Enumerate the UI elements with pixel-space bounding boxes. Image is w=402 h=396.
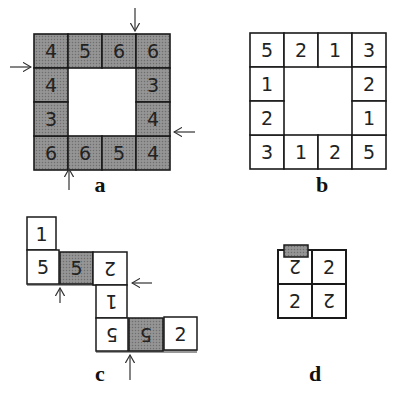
panel-b-tile-top-2: 1 xyxy=(318,33,352,67)
panel-a-tile-bottom-3-number: 4 xyxy=(147,142,159,164)
panel-a-tile-top-2-number: 6 xyxy=(113,40,125,62)
panel-b-tile-top-2-number: 1 xyxy=(329,39,341,61)
panel-a-tile-bottom-1: 6 xyxy=(68,136,102,170)
panel-c-tile-3: 2 xyxy=(93,252,127,285)
panel-b-tile-right-1: 1 xyxy=(352,101,386,135)
panel-a-tile-top-0-number: 4 xyxy=(45,40,57,62)
panel-b-tile-left-0: 1 xyxy=(250,67,284,101)
panel-a-tile-bottom-0-number: 6 xyxy=(45,142,57,164)
panel-b-tile-bottom-3-number: 5 xyxy=(363,141,375,163)
panel-d-tile-1-number: 2 xyxy=(323,256,335,278)
panel-a-tile-top-1-number: 5 xyxy=(79,40,91,62)
panel-b-tile-top-0-number: 5 xyxy=(261,39,273,61)
panel-a-tile-right-1: 4 xyxy=(136,102,170,136)
folding-puzzle-figure: 456666544334 521331251221 15521552 2222 … xyxy=(0,0,402,396)
panel-a-tile-right-1-number: 4 xyxy=(147,108,159,130)
panel-c-tile-1: 5 xyxy=(27,250,59,284)
panel-d-tile-2-number: 2 xyxy=(289,290,301,312)
panel-c-tile-4-number: 1 xyxy=(105,291,117,313)
panel-b-tile-left-1: 2 xyxy=(250,101,284,135)
panel-c-tile-7-number: 2 xyxy=(174,323,186,345)
panel-d-tile-2: 2 xyxy=(278,284,312,318)
panel-d-tile-0-number: 2 xyxy=(289,256,301,278)
panel-c-tile-0-number: 1 xyxy=(35,223,47,245)
panel-d-tile-1: 2 xyxy=(312,250,346,284)
panel-b-tile-right-0-number: 2 xyxy=(363,73,375,95)
panel-a-tile-top-0: 4 xyxy=(34,34,68,68)
panel-a-tile-top-1: 5 xyxy=(68,34,102,68)
panel-label-d: d xyxy=(309,361,321,386)
panel-a-tile-bottom-2-number: 5 xyxy=(113,142,125,164)
panel-a-tile-top-3: 6 xyxy=(136,34,170,68)
panel-a-tile-right-0: 3 xyxy=(136,68,170,102)
panel-b-tile-bottom-0: 3 xyxy=(250,135,284,169)
panel-b-tile-top-3: 3 xyxy=(352,33,386,67)
panel-a-tile-left-0-number: 4 xyxy=(45,74,57,96)
panel-label-c: c xyxy=(95,361,105,386)
panel-c-tile-3-number: 2 xyxy=(104,258,116,280)
panel-b-tile-bottom-3: 5 xyxy=(352,135,386,169)
panel-b-tile-top-1: 2 xyxy=(284,33,318,67)
panel-a-tile-top-2: 6 xyxy=(102,34,136,68)
panel-b-tile-top-1-number: 2 xyxy=(295,39,307,61)
panel-a-tile-bottom-3: 4 xyxy=(136,136,170,170)
panel-b-tile-left-0-number: 1 xyxy=(261,73,273,95)
panel-c-tile-6-number: 5 xyxy=(140,324,152,346)
panel-c-tile-5-number: 5 xyxy=(106,324,118,346)
panel-b-tile-bottom-2-number: 2 xyxy=(329,141,341,163)
panel-c-tile-1-number: 5 xyxy=(37,256,49,278)
folded-tab xyxy=(284,245,308,257)
panel-b-tile-bottom-1: 1 xyxy=(284,135,318,169)
panel-b-tile-top-0: 5 xyxy=(250,33,284,67)
panel-d-tile-3: 2 xyxy=(312,284,346,318)
panel-a-tile-left-0: 4 xyxy=(34,68,68,102)
panel-d: 2222 xyxy=(278,245,346,318)
panel-c-tile-5: 5 xyxy=(96,318,128,351)
panel-b-tile-bottom-2: 2 xyxy=(318,135,352,169)
panel-c: 15521552 xyxy=(27,217,197,353)
panel-c-tile-2-number: 5 xyxy=(70,257,82,279)
panel-label-a: a xyxy=(95,172,106,197)
panel-c-tile-2: 5 xyxy=(60,252,93,284)
panel-b-tile-bottom-0-number: 3 xyxy=(261,141,273,163)
panel-c-tile-6: 5 xyxy=(129,318,163,351)
panel-d-tile-3-number: 2 xyxy=(323,290,335,312)
panel-a-tile-bottom-1-number: 6 xyxy=(79,142,91,164)
panel-label-b: b xyxy=(316,172,328,197)
panel-a-tile-left-1-number: 3 xyxy=(45,108,57,130)
panel-c-tile-4: 1 xyxy=(96,285,127,318)
panel-a-tile-right-0-number: 3 xyxy=(147,74,159,96)
panel-b-tile-right-1-number: 1 xyxy=(363,107,375,129)
panel-b-tile-left-1-number: 2 xyxy=(261,107,273,129)
panel-a-tile-bottom-2: 5 xyxy=(102,136,136,170)
panel-b: 521331251221 xyxy=(250,33,386,169)
panel-c-tile-0: 1 xyxy=(27,217,56,250)
panel-a-tile-top-3-number: 6 xyxy=(147,40,159,62)
panel-a: 456666544334 xyxy=(34,34,170,170)
panel-c-tile-7: 2 xyxy=(164,317,197,350)
panel-a-tile-bottom-0: 6 xyxy=(34,136,68,170)
panel-a-tile-left-1: 3 xyxy=(34,102,68,136)
panel-b-tile-bottom-1-number: 1 xyxy=(295,141,307,163)
panel-b-tile-top-3-number: 3 xyxy=(363,39,375,61)
panel-b-tile-right-0: 2 xyxy=(352,67,386,101)
